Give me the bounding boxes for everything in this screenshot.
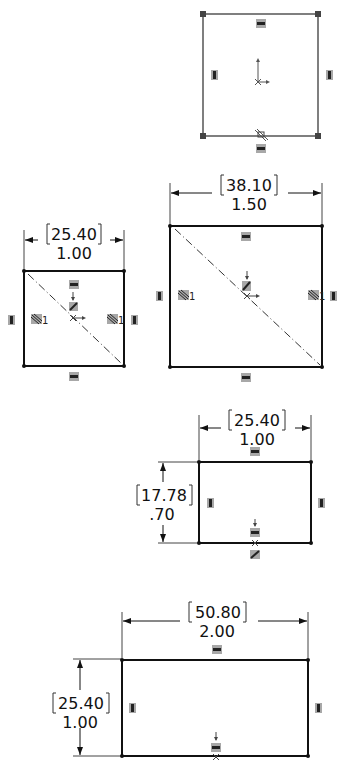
dimension-mm-value: 50.80 [195, 603, 241, 622]
dimension-in-value: 1.00 [62, 713, 98, 732]
sketch-1[interactable] [200, 11, 333, 153]
horizontal-relation-icon [250, 447, 260, 456]
width-dimension[interactable]: 25.40 1.00 [47, 224, 101, 263]
dimension-in-value: 2.00 [199, 622, 235, 641]
dimension-in-value: .70 [149, 505, 174, 524]
horizontal-relation-icon [241, 232, 251, 241]
equal-relation-icon: 1 [308, 290, 325, 302]
vertical-relation-icon [131, 315, 138, 325]
sketch-1-rectangle[interactable] [203, 14, 318, 136]
midpoint-relation-icon [250, 519, 260, 546]
horizontal-relation-icon [256, 144, 266, 153]
origin-icon [255, 58, 270, 85]
vertical-relation-icon [315, 703, 322, 713]
equal-relation-icon: 1 [107, 314, 124, 326]
svg-text:1: 1 [319, 291, 325, 302]
vertical-relation-icon [129, 703, 136, 713]
vertical-relation-icon [211, 70, 218, 80]
dimension-mm-value: 17.78 [141, 486, 187, 505]
dimension-mm-value: 25.40 [234, 411, 280, 430]
corner-point-icon[interactable] [200, 11, 206, 17]
sketch-5-rectangle[interactable] [122, 660, 308, 756]
sketch-4[interactable]: 25.40 1.00 17.78 .70 [137, 410, 325, 559]
vertical-relation-icon [330, 291, 337, 301]
svg-text:1: 1 [189, 291, 195, 302]
width-dimension[interactable]: 50.80 2.00 [189, 602, 246, 641]
sketch-5[interactable]: 50.80 2.00 25.40 1.00 [53, 602, 322, 760]
svg-text:1: 1 [42, 315, 48, 326]
height-dimension[interactable]: 25.40 1.00 [53, 693, 109, 732]
dimension-mm-value: 38.10 [226, 176, 272, 195]
sketch-2[interactable]: 25.40 1.00 1 1 [8, 224, 138, 381]
vertical-relation-icon [8, 315, 15, 325]
coincident-relation-icon [255, 129, 268, 141]
vertical-relation-icon [207, 498, 214, 508]
height-dimension[interactable]: 17.78 .70 [137, 485, 192, 524]
dimension-in-value: 1.50 [231, 195, 267, 214]
svg-text:1: 1 [118, 315, 124, 326]
width-dimension[interactable]: 38.10 1.50 [221, 175, 277, 214]
dimension-in-value: 1.00 [56, 244, 92, 263]
sketch-3[interactable]: 38.10 1.50 1 1 [156, 175, 337, 382]
vertical-relation-icon [156, 291, 163, 301]
horizontal-relation-icon [241, 373, 251, 382]
corner-point-icon[interactable] [315, 133, 321, 139]
dimension-in-value: 1.00 [239, 430, 275, 449]
collinear-relation-icon [250, 550, 260, 559]
horizontal-relation-icon [69, 280, 79, 289]
midpoint-relation-icon [69, 292, 86, 321]
vertical-relation-icon [326, 70, 333, 80]
dimension-mm-value: 25.40 [51, 225, 97, 244]
dimension-mm-value: 25.40 [58, 694, 104, 713]
corner-point-icon[interactable] [315, 11, 321, 17]
vertical-relation-icon [318, 498, 325, 508]
horizontal-relation-icon [69, 372, 79, 381]
equal-relation-icon: 1 [178, 290, 195, 302]
equal-relation-icon: 1 [31, 314, 48, 326]
corner-point-icon[interactable] [200, 133, 206, 139]
horizontal-relation-icon [256, 19, 266, 28]
horizontal-relation-icon [212, 645, 222, 654]
width-dimension[interactable]: 25.40 1.00 [229, 410, 285, 449]
